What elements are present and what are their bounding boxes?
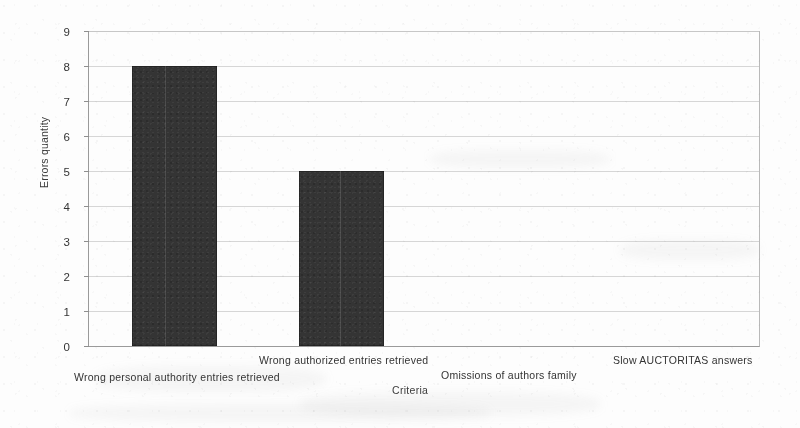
y-tick-label: 0 — [0, 341, 70, 353]
y-tick-label: 8 — [0, 61, 70, 73]
plot-area — [88, 31, 760, 347]
gridline-9 — [89, 31, 759, 32]
y-tick-mark — [84, 241, 89, 242]
bar-wrong-authorized-entries-retrieved — [299, 171, 384, 346]
y-tick-label: 9 — [0, 26, 70, 38]
y-tick-mark — [84, 66, 89, 67]
y-tick-label: 1 — [0, 306, 70, 318]
x-axis-title: Criteria — [392, 384, 428, 396]
y-tick-mark — [84, 311, 89, 312]
x-category-label-1: Wrong personal authority entries retriev… — [74, 371, 280, 383]
bar-seam — [340, 171, 341, 346]
y-tick-mark — [84, 346, 89, 347]
y-tick-label: 6 — [0, 131, 70, 143]
scan-smudge — [70, 404, 490, 422]
y-tick-mark — [84, 171, 89, 172]
chart-page: 9 8 7 6 5 4 3 2 1 0 — [0, 0, 800, 428]
y-axis-tick-labels: 9 8 7 6 5 4 3 2 1 0 — [0, 0, 80, 428]
x-category-label-4: Slow AUCTORITAS answers — [613, 354, 753, 366]
y-tick-label: 7 — [0, 96, 70, 108]
bar-wrong-personal-authority-entries-retrieved — [132, 66, 217, 346]
y-tick-label: 2 — [0, 271, 70, 283]
y-axis-title: Errors quantity — [38, 78, 50, 188]
x-category-label-3: Omissions of authors family — [441, 369, 577, 381]
y-tick-mark — [84, 136, 89, 137]
scan-smudge — [300, 392, 600, 416]
y-tick-mark — [84, 276, 89, 277]
x-category-label-2: Wrong authorized entries retrieved — [259, 354, 428, 366]
y-tick-label: 4 — [0, 201, 70, 213]
y-tick-label: 5 — [0, 166, 70, 178]
y-tick-mark — [84, 31, 89, 32]
y-tick-mark — [84, 101, 89, 102]
bar-seam — [165, 66, 166, 346]
y-tick-mark — [84, 206, 89, 207]
y-tick-label: 3 — [0, 236, 70, 248]
